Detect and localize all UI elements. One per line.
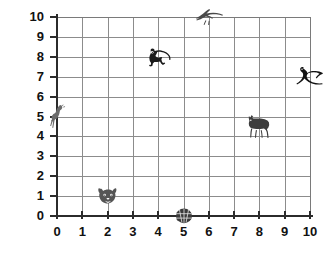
y-axis-tick — [50, 155, 58, 157]
x-axis-tick-label: 2 — [96, 225, 120, 238]
x-axis-tick — [284, 211, 286, 219]
gridline-horizontal — [57, 97, 310, 98]
y-axis-tick — [50, 56, 58, 58]
x-axis-tick-label: 3 — [121, 225, 145, 238]
x-axis-tick — [81, 211, 83, 219]
y-axis-tick — [50, 116, 58, 118]
x-axis-tick-label: 8 — [247, 225, 271, 238]
gridline-horizontal — [57, 37, 310, 38]
x-axis-tick — [258, 211, 260, 219]
y-axis-tick-label: 3 — [22, 149, 44, 162]
y-axis-tick — [50, 36, 58, 38]
y-axis-tick — [50, 96, 58, 98]
y-axis-tick-label: 9 — [22, 30, 44, 43]
gridline-horizontal — [57, 117, 310, 118]
scatter-chart: 012345678910 012345678910 — [0, 0, 326, 256]
y-axis-tick-label: 6 — [22, 90, 44, 103]
gridline-horizontal — [57, 57, 310, 58]
x-axis-tick — [107, 211, 109, 219]
x-axis-tick-label: 10 — [298, 225, 322, 238]
x-axis-tick-label: 6 — [197, 225, 221, 238]
gridline-horizontal — [57, 136, 310, 137]
x-axis-tick — [309, 211, 311, 219]
x-axis-tick-label: 1 — [70, 225, 94, 238]
gridline-horizontal — [57, 156, 310, 157]
x-axis-tick-label: 0 — [45, 225, 69, 238]
x-axis-tick — [233, 211, 235, 219]
gridline-horizontal — [57, 176, 310, 177]
x-axis-tick — [132, 211, 134, 219]
y-axis-tick-label: 4 — [22, 129, 44, 142]
x-axis-tick-label: 7 — [222, 225, 246, 238]
y-axis-tick — [50, 135, 58, 137]
y-axis-tick — [50, 16, 58, 18]
y-axis-tick-label: 10 — [22, 10, 44, 23]
gridline-horizontal — [57, 196, 310, 197]
x-axis-tick — [56, 211, 58, 219]
x-axis-tick-label: 4 — [146, 225, 170, 238]
x-axis-tick — [183, 211, 185, 219]
y-axis-tick-label: 2 — [22, 169, 44, 182]
y-axis-tick-label: 7 — [22, 70, 44, 83]
y-axis-tick — [50, 175, 58, 177]
x-axis-tick — [157, 211, 159, 219]
gridline-horizontal — [57, 17, 310, 18]
y-axis-tick-label: 5 — [22, 110, 44, 123]
plot-area — [57, 17, 310, 216]
y-axis-tick-label: 0 — [22, 209, 44, 222]
x-axis-tick — [208, 211, 210, 219]
gridline-horizontal — [57, 77, 310, 78]
y-axis-tick — [50, 195, 58, 197]
y-axis-tick-label: 1 — [22, 189, 44, 202]
x-axis-tick-label: 5 — [172, 225, 196, 238]
y-axis-tick-label: 8 — [22, 50, 44, 63]
gridline-vertical — [310, 17, 311, 216]
y-axis-tick — [50, 76, 58, 78]
x-axis-tick-label: 9 — [273, 225, 297, 238]
